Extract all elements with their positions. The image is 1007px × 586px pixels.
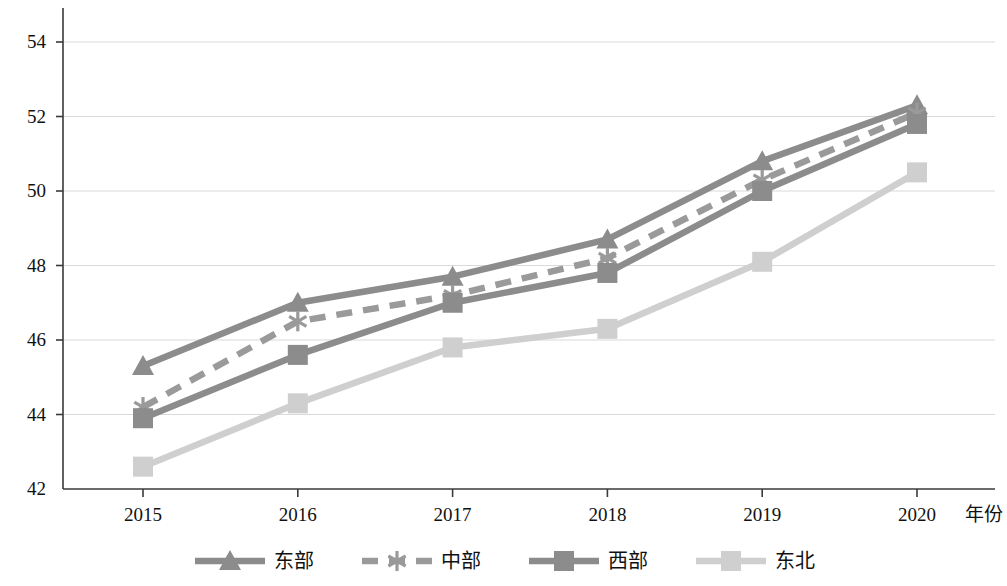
line-chart: 42444648505254 201520162017201820192020 … — [0, 0, 1007, 586]
y-axis-tick-label: 44 — [2, 405, 46, 424]
data-point-marker — [133, 457, 153, 477]
legend-label: 东北 — [775, 551, 815, 571]
legend-label: 西部 — [608, 551, 648, 571]
x-axis-title: 年份 — [965, 505, 1003, 524]
legend-swatch — [193, 548, 267, 574]
data-point-marker — [597, 319, 617, 339]
axis-lines — [63, 8, 995, 489]
y-axis-ticks — [56, 42, 63, 415]
y-axis-tick-label: 54 — [2, 32, 46, 51]
data-point-marker — [443, 337, 463, 357]
data-point-marker — [907, 162, 927, 182]
y-axis-tick-label: 46 — [2, 330, 46, 349]
legend-swatch — [527, 548, 601, 574]
x-axis-tick-label: 2018 — [562, 505, 652, 524]
legend-item-东北[interactable]: 东北 — [694, 548, 815, 574]
y-axis-tick-label: 48 — [2, 256, 46, 275]
legend-label: 中部 — [441, 551, 481, 571]
legend-item-西部[interactable]: 西部 — [527, 548, 648, 574]
x-axis-ticks — [143, 489, 917, 497]
y-axis-tick-label: 50 — [2, 181, 46, 200]
data-point-marker — [752, 181, 772, 201]
y-axis-tick-label: 52 — [2, 107, 46, 126]
chart-legend: 东部中部西部东北 — [0, 548, 1007, 574]
x-axis-tick-label: 2020 — [872, 505, 962, 524]
data-point-marker — [288, 393, 308, 413]
x-axis-tick-label: 2015 — [98, 505, 188, 524]
legend-marker — [721, 551, 741, 571]
data-point-marker — [133, 408, 153, 428]
y-axis-tick-label: 42 — [2, 479, 46, 498]
series-lines — [143, 105, 917, 466]
data-point-marker — [752, 252, 772, 272]
x-axis-tick-label: 2016 — [253, 505, 343, 524]
plot-area — [0, 0, 1007, 586]
gridlines — [63, 42, 995, 415]
data-point-marker — [443, 293, 463, 313]
legend-item-中部[interactable]: 中部 — [360, 548, 481, 574]
data-point-marker — [597, 263, 617, 283]
legend-label: 东部 — [274, 551, 314, 571]
x-axis-tick-label: 2019 — [717, 505, 807, 524]
legend-swatch — [360, 548, 434, 574]
x-axis-tick-label: 2017 — [408, 505, 498, 524]
data-point-marker — [288, 345, 308, 365]
legend-marker — [554, 551, 574, 571]
legend-swatch — [694, 548, 768, 574]
data-point-marker — [907, 114, 927, 134]
legend-item-东部[interactable]: 东部 — [193, 548, 314, 574]
series-line — [143, 124, 917, 418]
